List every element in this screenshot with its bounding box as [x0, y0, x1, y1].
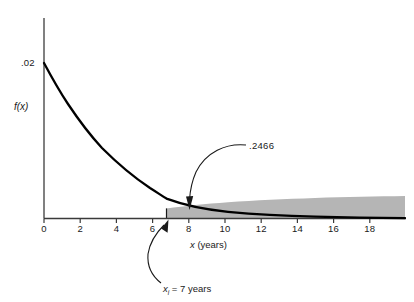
- x-tick-label-10: 10: [214, 223, 236, 234]
- x-tick-label-4: 4: [105, 223, 127, 234]
- x-tick-label-14: 14: [286, 223, 308, 234]
- x-tick-label-8: 8: [178, 223, 200, 234]
- x-tick-label-6: 6: [142, 223, 164, 234]
- x-tick-label-12: 12: [250, 223, 272, 234]
- exponential-distribution-plot: [0, 0, 414, 302]
- x-axis-title-variable: x: [190, 239, 195, 250]
- x-axis-title: x (years): [190, 239, 227, 250]
- xi-value-text: = 7 years: [169, 283, 211, 294]
- y-axis-title: f(x): [14, 101, 28, 112]
- x-tick-label-0: 0: [33, 223, 55, 234]
- xi-value-label: xi = 7 years: [163, 283, 211, 296]
- chart-figure: .02 f(x) 0 2 4 6 8 10 12 14 16 18 x (yea…: [0, 0, 414, 302]
- x-tick-label-16: 16: [323, 223, 345, 234]
- x-axis-title-unit: (years): [197, 239, 227, 250]
- x-tick-label-2: 2: [69, 223, 91, 234]
- tail-area-value-label: .2466: [249, 140, 274, 151]
- y-axis-max-label: .02: [21, 57, 35, 68]
- density-curve: [44, 63, 405, 218]
- x-tick-label-18: 18: [359, 223, 381, 234]
- area-callout-leader: [190, 145, 247, 200]
